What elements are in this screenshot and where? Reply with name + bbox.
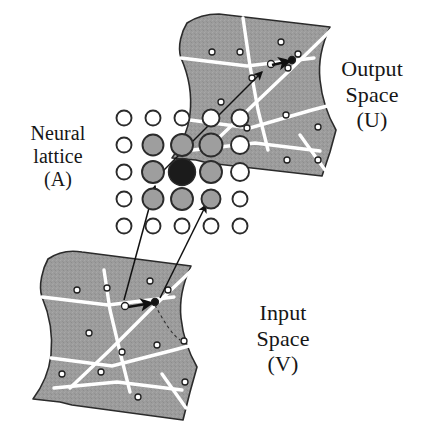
lattice-node-neighborhood [143,189,164,210]
lattice-node-open [233,192,248,207]
codebook-dot [284,157,290,163]
lattice-node-open [232,110,249,127]
lattice-node-neighborhood [200,134,223,157]
output-space-manifold [172,14,336,176]
lattice-node-neighborhood [171,134,193,156]
lattice-node-open [175,219,190,234]
codebook-dot [165,287,171,293]
lattice-node-open [117,192,132,207]
label-output-space-line2: Space [322,82,422,108]
lattice-node-open [117,165,132,180]
codebook-dot [295,51,301,57]
label-input-space: Input Space (V) [236,300,330,377]
label-output-space-line1: Output [322,56,422,82]
codebook-dot [315,124,321,130]
label-neural-lattice-line2: lattice [6,145,110,168]
label-neural-lattice-line1: Neural [6,122,110,145]
codebook-dot [218,99,224,105]
codebook-dot [74,287,80,293]
label-input-space-line1: Input [236,300,330,326]
label-input-space-line2: Space [236,326,330,352]
lattice-node-open [146,111,161,126]
lattice-node-open [231,136,249,154]
lattice-node-neighborhood [200,161,222,183]
codebook-dot [86,330,92,336]
label-input-space-line3: (V) [236,351,330,377]
lattice-node-open [117,219,132,234]
codebook-dot [181,338,187,344]
figure-canvas: Neural lattice (A) Output Space (U) Inpu… [0,0,425,437]
lattice-node-open [117,138,132,153]
lattice-node-open [175,111,190,126]
input-space-manifold [33,251,197,420]
label-neural-lattice-line3: (A) [6,168,110,191]
lattice-node-open [204,219,219,234]
lattice-node-neighborhood [202,190,221,209]
codebook-dot [237,49,243,55]
lattice-node-neighborhood [143,135,164,156]
codebook-dot [209,49,215,55]
codebook-dot [278,39,284,45]
codebook-dot [119,349,125,355]
codebook-dot [285,65,291,71]
codebook-dot [122,303,129,310]
lattice-node-open [146,219,161,234]
lattice-node-open [117,111,132,126]
codebook-dot [283,112,289,118]
lattice-node-neighborhood [171,188,193,210]
label-output-space: Output Space (U) [322,56,422,133]
codebook-dot [98,369,104,375]
label-neural-lattice: Neural lattice (A) [6,122,110,192]
lattice-node-neighborhood [142,161,164,183]
codebook-dot [135,394,141,400]
codebook-dot [182,379,188,385]
lattice-node-winner [169,159,196,186]
label-output-space-line3: (U) [322,107,422,133]
codebook-dot [59,371,65,377]
codebook-dot-active [152,299,159,306]
lattice-node-open [203,110,220,127]
codebook-dot [104,285,110,291]
codebook-dot [147,278,153,284]
codebook-dot [154,342,160,348]
lattice-node-open [231,163,249,181]
codebook-dot [315,157,321,163]
lattice-node-open [233,219,248,234]
